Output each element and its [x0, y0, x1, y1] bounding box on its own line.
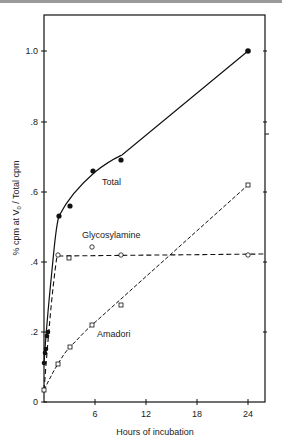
amadori-line	[44, 185, 248, 390]
x-tick-18: 18	[192, 409, 202, 419]
total-markers	[42, 48, 251, 365]
y-tick-1.0: 1.0	[25, 46, 38, 56]
x-axis-title: Hours of incubation	[116, 427, 194, 437]
glycosylamine-line	[44, 254, 265, 390]
amadori-markers	[42, 183, 250, 392]
y-axis-title: % cpm at V0 / Total cpm	[11, 160, 22, 255]
total-label: Total	[102, 177, 121, 187]
plot-frame	[44, 15, 265, 402]
y-tick-0.4: .4	[30, 257, 38, 267]
y-tick-0: 0	[33, 397, 38, 407]
x-tick-24: 24	[243, 409, 253, 419]
x-tick-6: 6	[92, 409, 97, 419]
y-tick-0.6: .6	[30, 187, 38, 197]
y-tick-0.2: .2	[30, 327, 38, 337]
amadori-label: Amadori	[97, 329, 131, 339]
y-tick-0.8: .8	[30, 117, 38, 127]
total-line	[44, 51, 248, 364]
chart: 0 .2 .4 .6 .8 1.0 6 12 18 24 Hours of in…	[0, 0, 282, 443]
y-axis: 0 .2 .4 .6 .8 1.0	[25, 46, 269, 407]
glycosylamine-label: Glycosylamine	[82, 230, 141, 240]
x-tick-12: 12	[141, 409, 151, 419]
